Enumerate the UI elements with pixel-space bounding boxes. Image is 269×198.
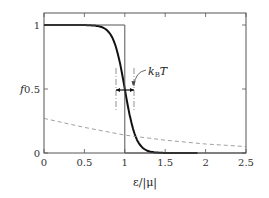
x-tick-label: 1 xyxy=(122,157,128,168)
x-tick-label: 2 xyxy=(202,157,208,168)
series-line xyxy=(44,25,246,153)
y-tick-label: 0.5 xyxy=(24,84,40,95)
plot-frame xyxy=(44,13,246,153)
x-tick-label: 0.5 xyxy=(76,157,92,168)
x-tick-label: 2.5 xyxy=(238,157,254,168)
x-tick-label: 1.5 xyxy=(157,157,173,168)
y-tick-label: 0 xyxy=(34,148,40,159)
series-line xyxy=(44,118,246,146)
series-line xyxy=(44,25,198,153)
y-tick-label: 1 xyxy=(34,20,40,31)
x-tick-label: 0 xyxy=(41,157,47,168)
kbt-marker xyxy=(116,68,146,112)
series-layer xyxy=(44,25,246,153)
fermi-dirac-chart: 00.511.522.500.51 kBT f ε/|μ| xyxy=(0,0,269,198)
kbt-annotation: kBT xyxy=(148,65,169,79)
x-axis-label: ε/|μ| xyxy=(133,176,157,190)
